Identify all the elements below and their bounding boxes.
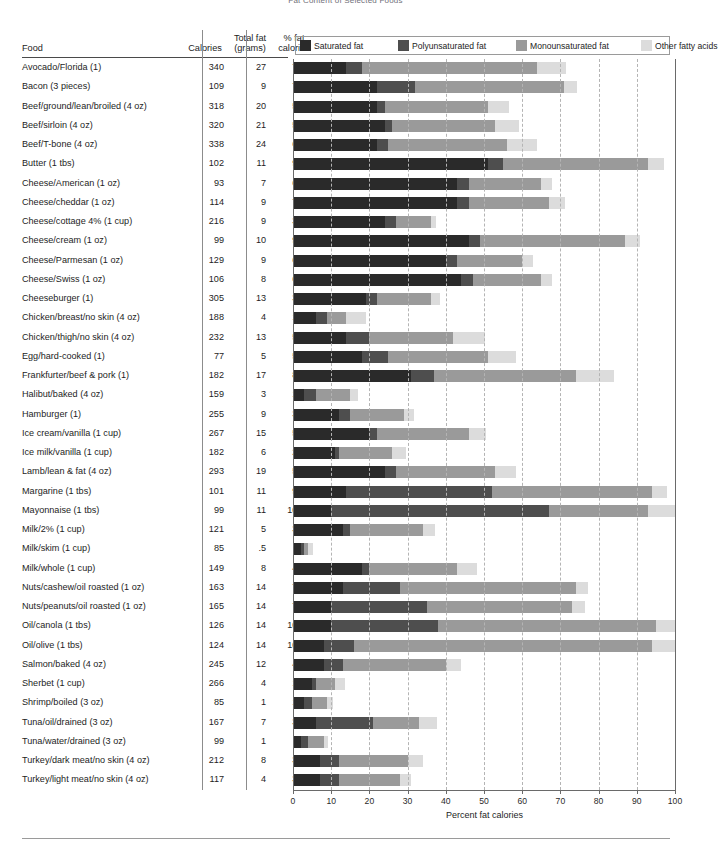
bar-segment-saturated xyxy=(293,466,385,478)
legend-item-polyunsaturated: Polyunsaturated fat xyxy=(396,40,514,51)
bar-segment-saturated xyxy=(293,139,377,151)
cell-total-fat: 27 xyxy=(228,62,266,72)
cell-total-fat: 21 xyxy=(228,120,266,130)
legend-swatch-saturated-icon xyxy=(300,40,311,51)
stacked-bar xyxy=(293,197,565,209)
bar-segment-monounsaturated xyxy=(373,717,419,729)
bar-segment-saturated xyxy=(293,563,362,575)
cell-food: Bacon (3 pieces) xyxy=(22,81,90,91)
cell-food: Ice milk/vanilla (1 cup) xyxy=(22,447,112,457)
bar-segment-saturated xyxy=(293,582,343,594)
cell-calories: 216 xyxy=(182,216,224,226)
legend-item-monounsaturated: Monounsaturated fat xyxy=(514,40,639,51)
bar-segment-polyunsaturated xyxy=(331,620,438,632)
bar-segment-other xyxy=(453,332,485,344)
plot-area xyxy=(293,59,676,790)
bar-segment-monounsaturated xyxy=(369,563,457,575)
cell-food: Mayonnaise (1 tbs) xyxy=(22,505,99,515)
bar-segment-monounsaturated xyxy=(438,620,656,632)
bar-segment-other xyxy=(350,389,358,401)
cell-total-fat: 12 xyxy=(228,659,266,669)
bar-segment-saturated xyxy=(293,101,377,113)
stacked-bar xyxy=(293,774,411,786)
bar-segment-polyunsaturated xyxy=(324,640,355,652)
cell-total-fat: 5 xyxy=(228,524,266,534)
cell-calories: 99 xyxy=(182,736,224,746)
cell-total-fat: 19 xyxy=(228,466,266,476)
bar-segment-monounsaturated xyxy=(388,351,487,363)
cell-calories: 114 xyxy=(182,197,224,207)
stacked-bar xyxy=(293,601,585,613)
x-tick-label: 50 xyxy=(469,796,499,806)
bar-segment-other xyxy=(522,255,533,267)
stacked-bar xyxy=(293,678,345,690)
cell-calories: 255 xyxy=(182,409,224,419)
bar-segment-monounsaturated xyxy=(396,216,430,228)
cell-food: Lamb/lean & fat (4 oz) xyxy=(22,466,111,476)
bar-segment-polyunsaturated xyxy=(331,601,427,613)
cell-total-fat: 13 xyxy=(228,332,266,342)
x-tick-label: 100 xyxy=(660,796,690,806)
bar-segment-polyunsaturated xyxy=(331,505,549,517)
bar-segment-monounsaturated xyxy=(385,101,488,113)
chart-title: Fat Content of Selected Foods xyxy=(0,0,691,5)
bar-segment-other xyxy=(495,466,516,478)
cell-calories: 338 xyxy=(182,139,224,149)
bar-segment-other xyxy=(324,736,328,748)
cell-total-fat: 8 xyxy=(228,563,266,573)
cell-total-fat: 5 xyxy=(228,351,266,361)
bar-segment-other xyxy=(335,678,345,690)
cell-total-fat: 15 xyxy=(228,428,266,438)
bar-segment-polyunsaturated xyxy=(316,312,327,324)
x-tick xyxy=(675,790,676,794)
cell-food: Milk/whole (1 cup) xyxy=(22,563,95,573)
legend-label: Other fatty acids xyxy=(655,41,718,51)
cell-calories: 165 xyxy=(182,601,224,611)
cell-total-fat: 14 xyxy=(228,601,266,611)
bar-segment-other xyxy=(495,120,518,132)
x-tick xyxy=(293,790,294,794)
bar-segment-monounsaturated xyxy=(415,81,564,93)
cell-food: Beef/sirloin (4 oz) xyxy=(22,120,93,130)
bar-segment-polyunsaturated xyxy=(469,235,480,247)
header-rule xyxy=(22,57,288,58)
legend-swatch-polyunsaturated-icon xyxy=(398,40,409,51)
legend-label: Monounsaturated fat xyxy=(530,41,609,51)
stacked-bar xyxy=(293,293,440,305)
cell-calories: 121 xyxy=(182,524,224,534)
cell-food: Milk/2% (1 cup) xyxy=(22,524,85,534)
bar-segment-saturated xyxy=(293,274,461,286)
gridline xyxy=(331,59,332,790)
cell-calories: 163 xyxy=(182,582,224,592)
cell-calories: 212 xyxy=(182,755,224,765)
bar-segment-other xyxy=(648,505,675,517)
bar-segment-saturated xyxy=(293,178,457,190)
cell-calories: 149 xyxy=(182,563,224,573)
cell-food: Oil/canola (1 tbs) xyxy=(22,620,91,630)
bar-segment-polyunsaturated xyxy=(385,120,393,132)
bar-segment-saturated xyxy=(293,697,304,709)
cell-calories: 99 xyxy=(182,505,224,515)
bar-segment-polyunsaturated xyxy=(343,582,400,594)
bar-segment-polyunsaturated xyxy=(362,563,370,575)
cell-calories: 85 xyxy=(182,543,224,553)
bar-segment-saturated xyxy=(293,717,316,729)
cell-calories: 267 xyxy=(182,428,224,438)
stacked-bar xyxy=(293,447,406,459)
bar-segment-other xyxy=(346,312,365,324)
bar-segment-saturated xyxy=(293,678,312,690)
cell-calories: 305 xyxy=(182,293,224,303)
cell-food: Margarine (1 tbs) xyxy=(22,486,91,496)
cell-calories: 106 xyxy=(182,274,224,284)
total-fat-line2: (grams) xyxy=(228,43,272,53)
gridline xyxy=(560,59,561,790)
stacked-bar xyxy=(293,755,423,767)
legend-swatch-other-icon xyxy=(641,40,652,51)
stacked-bar xyxy=(293,312,366,324)
cell-total-fat: 14 xyxy=(228,582,266,592)
x-tick-label: 10 xyxy=(316,796,346,806)
cell-calories: 182 xyxy=(182,447,224,457)
bar-segment-polyunsaturated xyxy=(457,178,468,190)
cell-total-fat: 11 xyxy=(228,505,266,515)
